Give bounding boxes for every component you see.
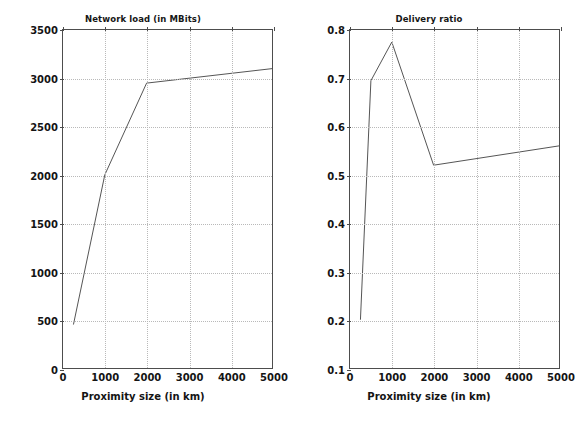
x-tick-label-network-load: 3000 (176, 372, 204, 383)
x-tick-mark (105, 27, 106, 31)
y-tick-label-delivery-ratio: 0.2 (327, 316, 345, 327)
x-tick-label-network-load: 0 (60, 372, 67, 383)
y-tick-label-network-load: 3500 (30, 25, 58, 36)
chart-title-delivery-ratio: Delivery ratio (286, 14, 572, 24)
chart-panel-network-load: Network load (in MBits) 0500100015002000… (0, 0, 286, 431)
y-tick-label-delivery-ratio: 0.1 (327, 365, 345, 376)
x-tick-label-delivery-ratio: 4000 (505, 372, 533, 383)
y-tick-mark (347, 273, 351, 274)
x-tick-label-network-load: 5000 (260, 372, 288, 383)
line-series-network-load (73, 69, 272, 325)
series-layer-delivery-ratio (350, 30, 559, 368)
y-tick-label-network-load: 500 (37, 316, 58, 327)
x-tick-mark (63, 27, 64, 31)
x-tick-label-network-load: 2000 (133, 372, 161, 383)
y-tick-mark (60, 176, 64, 177)
plot-area-network-load: 0500100015002000250030003500010002000300… (62, 29, 273, 369)
y-tick-label-delivery-ratio: 0.5 (327, 170, 345, 181)
x-tick-mark (190, 27, 191, 31)
y-tick-label-delivery-ratio: 0.8 (327, 25, 345, 36)
x-tick-mark (274, 27, 275, 31)
y-tick-label-delivery-ratio: 0.6 (327, 122, 345, 133)
y-tick-label-delivery-ratio: 0.3 (327, 267, 345, 278)
x-tick-mark (147, 27, 148, 31)
y-tick-mark (60, 127, 64, 128)
x-tick-label-delivery-ratio: 5000 (547, 372, 575, 383)
x-tick-label-delivery-ratio: 2000 (420, 372, 448, 383)
x-tick-label-network-load: 1000 (91, 372, 119, 383)
y-tick-mark (347, 176, 351, 177)
y-tick-mark (347, 370, 351, 371)
y-tick-mark (347, 79, 351, 80)
y-tick-label-network-load: 2500 (30, 122, 58, 133)
y-tick-label-network-load: 0 (51, 365, 58, 376)
chart-title-network-load: Network load (in MBits) (0, 14, 286, 24)
y-tick-label-network-load: 3000 (30, 73, 58, 84)
y-tick-label-network-load: 1000 (30, 267, 58, 278)
y-tick-mark (60, 321, 64, 322)
x-tick-mark (392, 27, 393, 31)
x-tick-mark (519, 27, 520, 31)
x-tick-label-network-load: 4000 (218, 372, 246, 383)
line-series-delivery-ratio (360, 42, 559, 320)
y-tick-label-delivery-ratio: 0.7 (327, 73, 345, 84)
y-tick-mark (60, 273, 64, 274)
y-tick-mark (347, 321, 351, 322)
y-tick-label-network-load: 2000 (30, 170, 58, 181)
plot-area-delivery-ratio: 0.10.20.30.40.50.60.70.80100020003000400… (349, 29, 560, 369)
x-tick-mark (350, 27, 351, 31)
y-tick-mark (60, 79, 64, 80)
y-tick-mark (60, 224, 64, 225)
x-tick-label-delivery-ratio: 1000 (378, 372, 406, 383)
y-tick-mark (60, 370, 64, 371)
x-tick-mark (477, 27, 478, 31)
x-axis-label-network-load: Proximity size (in km) (0, 391, 286, 402)
y-tick-mark (347, 224, 351, 225)
y-tick-label-network-load: 1500 (30, 219, 58, 230)
x-axis-label-delivery-ratio: Proximity size (in km) (286, 391, 572, 402)
chart-panel-delivery-ratio: Delivery ratio 0.10.20.30.40.50.60.70.80… (286, 0, 572, 431)
x-tick-label-delivery-ratio: 0 (347, 372, 354, 383)
x-tick-mark (434, 27, 435, 31)
series-layer-network-load (63, 30, 272, 368)
x-tick-mark (232, 27, 233, 31)
x-tick-label-delivery-ratio: 3000 (463, 372, 491, 383)
y-tick-mark (347, 127, 351, 128)
y-tick-label-delivery-ratio: 0.4 (327, 219, 345, 230)
x-tick-mark (561, 27, 562, 31)
